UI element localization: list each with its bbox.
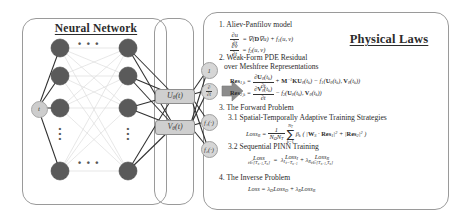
- section-2-equation-2: Res2,k = ∂Vθ(tk)∂t − f2(Uθ(tk), Vθ(tk)): [230, 86, 322, 101]
- section-1-heading: 1. Aliev-Panfilov model: [219, 21, 292, 29]
- physical-laws-content: 1. Aliev-Panfilov model ∂u∂t = ∇(D∇u) + …: [208, 16, 446, 208]
- section-3-2-equation: Losst∈[Tn−1,Tn] = λILossIt=Tn−1 + λRLoss…: [248, 154, 333, 166]
- section-3-heading: 3. The Forward Problem: [219, 104, 294, 112]
- section-3-1-heading: 3.1 Spatial-Temporally Adaptive Training…: [228, 114, 387, 122]
- section-4-equation: Loss = λDLossD + λRLossR: [248, 186, 315, 194]
- section-2-heading-line2: over Meshfree Representations: [224, 63, 318, 71]
- section-4-heading: 4. The Inverse Problem: [219, 174, 290, 182]
- hidden-layer-ellipsis-top: • • •: [78, 39, 100, 49]
- layer2-vertical-ellipsis: •••: [123, 126, 133, 141]
- figure-canvas: Neural Network Physical Laws: [0, 0, 453, 220]
- section-2-heading: 2. Weak-Form PDE Residual: [219, 54, 307, 62]
- light-edges: [60, 48, 128, 171]
- layer1-vertical-ellipsis: •••: [55, 126, 65, 141]
- section-3-2-heading: 3.2 Sequential PINN Training: [228, 143, 319, 151]
- hidden-layer-ellipsis-bottom: • • •: [78, 158, 100, 168]
